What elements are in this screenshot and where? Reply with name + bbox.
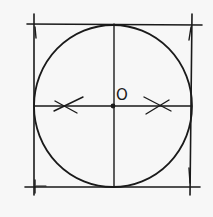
center-point xyxy=(111,104,116,109)
construction-drawing: O xyxy=(0,0,213,217)
corner-tick-top-right xyxy=(189,27,191,40)
center-label: O xyxy=(116,86,128,104)
corner-tick-top-left xyxy=(35,27,36,38)
left-construction-mark xyxy=(54,97,83,113)
corner-tick-bottom-right xyxy=(189,168,190,183)
diagram-canvas: O xyxy=(0,0,213,217)
